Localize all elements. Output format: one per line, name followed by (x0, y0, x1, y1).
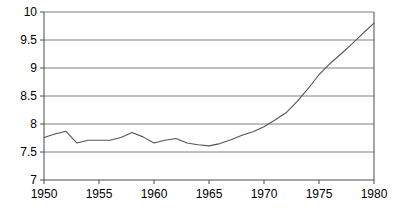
y-axis-tick-label: 9.5 (20, 33, 37, 47)
y-axis-tick-label: 9 (30, 61, 37, 75)
y-axis-tick-label: 7 (30, 173, 37, 187)
line-chart: 77.588.599.510 1950195519601965197019751… (0, 0, 396, 213)
x-axis-tick-label: 1980 (361, 187, 388, 201)
x-axis-tick-label: 1960 (141, 187, 168, 201)
y-axis-tick-label: 10 (24, 5, 38, 19)
x-axis-tick-label: 1975 (306, 187, 333, 201)
chart-canvas: 77.588.599.510 1950195519601965197019751… (0, 0, 396, 213)
x-axis-tick-label: 1950 (31, 187, 58, 201)
x-axis-tick-label: 1965 (196, 187, 223, 201)
x-axis-tick-label: 1970 (251, 187, 278, 201)
y-axis-tick-label: 8 (30, 117, 37, 131)
y-axis-tick-label: 7.5 (20, 145, 37, 159)
x-axis-tick-label: 1955 (86, 187, 113, 201)
y-axis-tick-label: 8.5 (20, 89, 37, 103)
chart-background (0, 0, 396, 213)
